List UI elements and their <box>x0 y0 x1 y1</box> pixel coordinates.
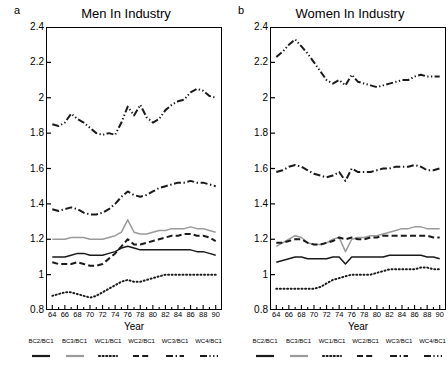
series-line <box>52 220 215 239</box>
x-tick-label: 88 <box>423 311 431 319</box>
x-tick-label: 78 <box>360 311 368 319</box>
legend-item[interactable]: BC3/BC1 <box>282 338 316 363</box>
panel-b: b Women In Industry 0.811.21.41.61.822.2… <box>224 0 448 368</box>
x-tick-label: 68 <box>73 311 81 319</box>
x-tick-label: 76 <box>348 311 356 319</box>
series-line <box>276 165 439 181</box>
x-axis-title-a: Year <box>46 321 222 333</box>
y-tick-label: 2.4 <box>228 22 268 32</box>
y-tick-label: 0.8 <box>4 305 44 315</box>
series-line <box>52 246 215 257</box>
series-line <box>276 39 439 87</box>
series-line <box>52 181 215 215</box>
plot-area-a <box>46 27 222 310</box>
y-tick-label: 1 <box>4 270 44 280</box>
y-tick-label: 1.8 <box>4 128 44 138</box>
y-tick-label: 1.4 <box>228 199 268 209</box>
x-tick-label: 70 <box>310 311 318 319</box>
panel-letter-a: a <box>14 5 20 16</box>
panel-letter-b: b <box>238 5 244 16</box>
y-tick-label: 1.8 <box>228 128 268 138</box>
panel-title-b: Women In Industry <box>260 6 440 21</box>
panel-title-a: Men In Industry <box>36 6 216 21</box>
x-tick-label: 86 <box>410 311 418 319</box>
y-axis-labels-b: 0.811.21.41.61.822.22.4 <box>224 27 268 310</box>
x-tick-label: 82 <box>385 311 393 319</box>
legend-label: WC2/BC1 <box>125 338 159 345</box>
panel-a: a Men In Industry 0.811.21.41.61.822.22.… <box>0 0 224 368</box>
x-tick-label: 78 <box>136 311 144 319</box>
legend-item[interactable]: WC4/BC1 <box>192 338 226 363</box>
series-line <box>52 275 215 298</box>
legend-item[interactable]: WC4/BC1 <box>416 338 448 363</box>
y-tick-label: 1.4 <box>4 199 44 209</box>
legend-label: WC3/BC1 <box>382 338 416 345</box>
legend-item[interactable]: BC3/BC1 <box>58 338 92 363</box>
legend-label: WC4/BC1 <box>416 338 448 345</box>
x-tick-label: 64 <box>48 311 56 319</box>
plot-lines-a <box>46 27 222 310</box>
legend-swatch <box>91 353 125 359</box>
y-tick-label: 0.8 <box>228 305 268 315</box>
legend-item[interactable]: WC3/BC1 <box>158 338 192 363</box>
y-tick-label: 1 <box>228 270 268 280</box>
legend-swatch <box>382 353 416 359</box>
x-tick-label: 72 <box>98 311 106 319</box>
x-tick-label: 80 <box>373 311 381 319</box>
legend-swatch <box>24 353 58 359</box>
x-tick-label: 82 <box>161 311 169 319</box>
y-tick-label: 2.4 <box>4 22 44 32</box>
x-tick-label: 90 <box>212 311 220 319</box>
legend-label: BC3/BC1 <box>58 338 92 345</box>
legend-swatch <box>58 353 92 359</box>
legend-swatch <box>248 353 282 359</box>
legend-item[interactable]: BC2/BC1 <box>248 338 282 363</box>
y-tick-label: 1.6 <box>4 164 44 174</box>
y-tick-label: 1.2 <box>228 234 268 244</box>
x-tick-label: 70 <box>86 311 94 319</box>
x-tick-label: 66 <box>61 311 69 319</box>
x-tick-label: 66 <box>285 311 293 319</box>
legend-item[interactable]: BC2/BC1 <box>24 338 58 363</box>
series-line <box>52 89 215 135</box>
legend-swatch <box>158 353 192 359</box>
legend-swatch <box>282 353 316 359</box>
legend-swatch <box>349 353 383 359</box>
legend-label: WC1/BC1 <box>91 338 125 345</box>
series-line <box>276 255 439 264</box>
legend-item[interactable]: WC3/BC1 <box>382 338 416 363</box>
y-axis-labels-a: 0.811.21.41.61.822.22.4 <box>0 27 44 310</box>
legend-item[interactable]: WC1/BC1 <box>91 338 125 363</box>
legend-swatch <box>125 353 159 359</box>
legend-swatch <box>315 353 349 359</box>
legend-swatch <box>192 353 226 359</box>
x-axis-title-b: Year <box>270 321 446 333</box>
y-tick-label: 1.6 <box>228 164 268 174</box>
x-tick-label: 84 <box>174 311 182 319</box>
legend-item[interactable]: WC2/BC1 <box>125 338 159 363</box>
y-tick-label: 2.2 <box>4 57 44 67</box>
y-tick-label: 2 <box>228 93 268 103</box>
x-tick-label: 68 <box>297 311 305 319</box>
x-tick-label: 84 <box>398 311 406 319</box>
legend-b: BC2/BC1BC3/BC1WC1/BC1WC2/BC1WC3/BC1WC4/B… <box>248 338 448 362</box>
plot-lines-b <box>270 27 446 310</box>
x-tick-label: 72 <box>322 311 330 319</box>
x-tick-label: 74 <box>335 311 343 319</box>
figure-root: a Men In Industry 0.811.21.41.61.822.22.… <box>0 0 448 368</box>
plot-area-b <box>270 27 446 310</box>
x-tick-label: 86 <box>186 311 194 319</box>
x-tick-label: 88 <box>199 311 207 319</box>
legend-item[interactable]: WC2/BC1 <box>349 338 383 363</box>
legend-label: BC2/BC1 <box>24 338 58 345</box>
legend-label: BC2/BC1 <box>248 338 282 345</box>
legend-label: WC4/BC1 <box>192 338 226 345</box>
x-tick-label: 76 <box>124 311 132 319</box>
x-tick-label: 74 <box>111 311 119 319</box>
legend-item[interactable]: WC1/BC1 <box>315 338 349 363</box>
y-tick-label: 2.2 <box>228 57 268 67</box>
y-tick-label: 1.2 <box>4 234 44 244</box>
x-tick-label: 90 <box>436 311 444 319</box>
legend-label: BC3/BC1 <box>282 338 316 345</box>
x-tick-label: 64 <box>272 311 280 319</box>
